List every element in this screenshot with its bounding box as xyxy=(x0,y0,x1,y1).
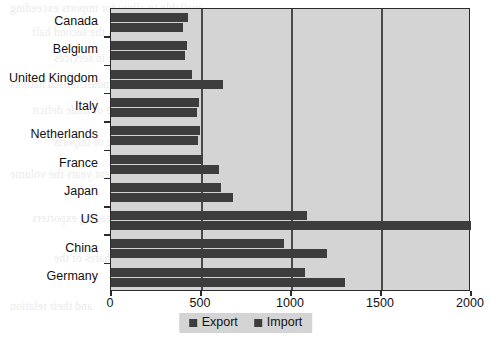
bar-export xyxy=(111,136,198,145)
bar-import xyxy=(111,268,305,277)
legend-swatch-import xyxy=(254,319,262,327)
bar-export xyxy=(111,23,183,32)
bar-export xyxy=(111,80,223,89)
y-axis-label-canada: Canada xyxy=(54,15,98,28)
y-axis-label-japan: Japan xyxy=(64,185,98,198)
legend-item-import: Import xyxy=(254,316,302,329)
y-axis-label-us: US xyxy=(81,213,98,226)
bar-group xyxy=(111,41,469,65)
y-axis-label-italy: Italy xyxy=(75,100,98,113)
bar-export xyxy=(111,193,233,202)
grouped-bar-chart: CanadaBelgiumUnited KingdomItalyNetherla… xyxy=(0,0,491,340)
bar-group xyxy=(111,268,469,292)
bar-group xyxy=(111,211,469,235)
y-axis-label-china: China xyxy=(65,242,98,255)
bar-group xyxy=(111,98,469,122)
y-axis-label-belgium: Belgium xyxy=(53,43,98,56)
bar-import xyxy=(111,155,203,164)
legend-item-export: Export xyxy=(189,316,238,329)
bar-import xyxy=(111,239,284,248)
y-axis-label-germany: Germany xyxy=(47,270,98,283)
x-axis-tick-label-1000: 1000 xyxy=(276,296,304,310)
x-axis-tick-label-2000: 2000 xyxy=(456,296,484,310)
bar-export xyxy=(111,51,185,60)
bar-group xyxy=(111,155,469,179)
bar-import xyxy=(111,13,188,22)
bar-import xyxy=(111,126,200,135)
bar-group xyxy=(111,13,469,37)
x-axis-tick-label-500: 500 xyxy=(190,296,211,310)
bar-export xyxy=(111,249,327,258)
bar-series-container xyxy=(111,9,469,290)
bar-group xyxy=(111,70,469,94)
bar-group xyxy=(111,239,469,263)
bar-export xyxy=(111,165,219,174)
bar-export xyxy=(111,108,197,117)
bar-import xyxy=(111,70,192,79)
bar-group xyxy=(111,126,469,150)
y-axis-label-united-kingdom: United Kingdom xyxy=(9,72,98,85)
legend-swatch-export xyxy=(189,319,197,327)
bar-import xyxy=(111,41,187,50)
bar-import xyxy=(111,211,307,220)
legend-label-import: Import xyxy=(267,316,302,329)
bar-group xyxy=(111,183,469,207)
bar-export xyxy=(111,278,345,287)
bar-import xyxy=(111,183,221,192)
y-axis-label-france: France xyxy=(59,157,98,170)
chart-legend: Export Import xyxy=(179,313,313,333)
plot-area xyxy=(110,8,470,291)
x-axis-tick-label-0: 0 xyxy=(107,296,114,310)
legend-label-export: Export xyxy=(202,316,238,329)
x-axis-tick-label-1500: 1500 xyxy=(366,296,394,310)
y-axis-label-netherlands: Netherlands xyxy=(31,128,98,141)
bar-import xyxy=(111,98,199,107)
y-axis-labels: CanadaBelgiumUnited KingdomItalyNetherla… xyxy=(0,8,106,291)
bar-export xyxy=(111,221,471,230)
x-axis-tick-labels: 0500100015002000 xyxy=(0,296,491,312)
